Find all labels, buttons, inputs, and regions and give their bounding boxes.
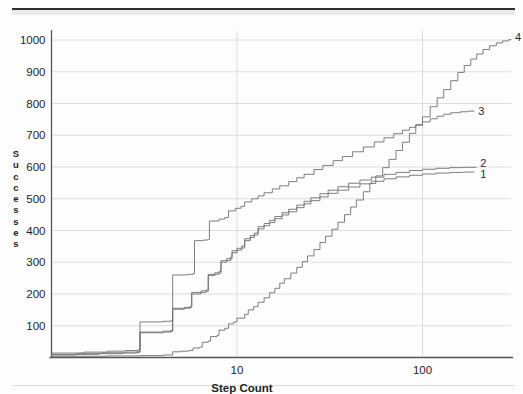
data-series-group [52, 39, 512, 356]
series-label-1: 1 [480, 168, 486, 180]
y-axis-tick-label: 1000 [20, 34, 46, 46]
axes [50, 30, 514, 358]
line-chart-svg: 100200300400500600700800900100010100Step… [0, 0, 523, 394]
y-axis-tick-label: 400 [26, 225, 45, 237]
y-axis-tick-label: 600 [26, 161, 45, 173]
x-axis-tick-labels: 10100 [231, 364, 432, 376]
series-line-4 [52, 39, 512, 356]
y-axis-tick-label: 300 [26, 256, 45, 268]
y-axis-tick-label: 200 [26, 288, 45, 300]
x-axis-title: Step Count [211, 382, 272, 394]
series-end-labels: 4321 [478, 31, 521, 180]
x-axis-tick-label: 100 [413, 364, 432, 376]
x-axis-tick-label: 10 [231, 364, 244, 376]
series-label-4: 4 [515, 31, 521, 43]
y-axis-tick-label: 800 [26, 98, 45, 110]
series-line-3 [52, 111, 475, 353]
y-axis-tick-label: 900 [26, 66, 45, 78]
chart-plot-area: 100200300400500600700800900100010100Step… [0, 0, 523, 394]
y-axis-tick-labels: 1002003004005006007008009001000 [20, 34, 46, 332]
series-label-3: 3 [478, 105, 484, 117]
y-axis-tick-label: 100 [26, 320, 45, 332]
gridlines [52, 31, 512, 358]
y-axis-tick-label: 700 [26, 129, 45, 141]
chart-page: Successes 100200300400500600700800900100… [0, 0, 523, 394]
y-axis-tick-label: 500 [26, 193, 45, 205]
